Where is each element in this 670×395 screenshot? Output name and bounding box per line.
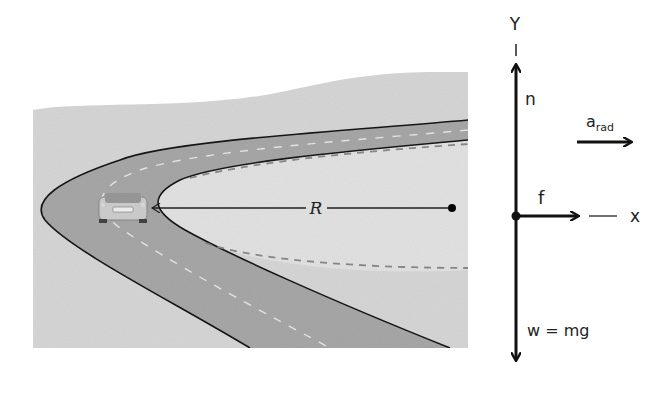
x-axis-label: x — [630, 206, 640, 226]
y-axis-label: Y — [509, 14, 521, 34]
acceleration-subscript: rad — [596, 121, 614, 134]
normal-force-label: n — [525, 89, 536, 109]
road-scene — [33, 72, 468, 348]
radius-label: R — [309, 198, 323, 218]
origin-point — [512, 212, 521, 221]
car-icon — [99, 193, 147, 223]
curve-center-point — [448, 204, 456, 212]
friction-label: f — [538, 187, 545, 208]
weight-label: w = mg — [527, 321, 589, 340]
acceleration-label: arad — [586, 112, 614, 134]
acceleration-symbol: a — [586, 112, 596, 131]
diagram-canvas: R Y n f x w = mg arad — [0, 0, 670, 395]
